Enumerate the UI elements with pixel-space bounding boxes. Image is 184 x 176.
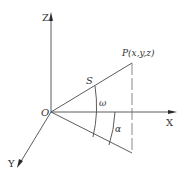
y-axis-label: Y [7, 158, 15, 169]
coordinate-diagram: Z X Y O P(x,y,z) S ω α [0, 0, 184, 176]
z-axis-arrow-icon [49, 12, 53, 21]
origin-label: O [41, 107, 49, 118]
omega-label: ω [99, 98, 107, 108]
x-axis-label: X [166, 117, 174, 128]
segment-s [51, 63, 132, 112]
point-p-label: P(x,y,z) [121, 48, 155, 58]
segment-s-label: S [86, 75, 93, 86]
alpha-label: α [115, 124, 121, 134]
omega-arc [93, 86, 97, 137]
y-axis [20, 112, 51, 163]
z-axis-label: Z [42, 12, 49, 23]
x-axis-arrow-icon [168, 110, 177, 114]
